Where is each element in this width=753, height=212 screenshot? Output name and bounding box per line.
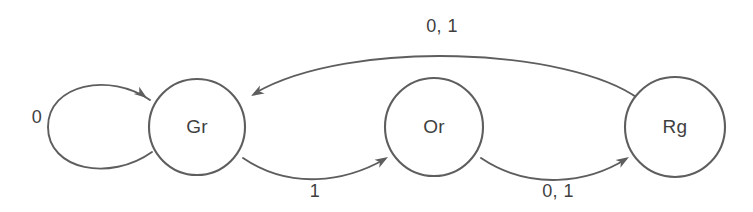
transition-path-or-to-rg [481, 158, 626, 180]
transition-label-rg-to-gr: 0, 1 [426, 16, 458, 36]
transition-gr-to-or[interactable] [243, 153, 390, 179]
arrowhead-gr-self [134, 87, 150, 102]
arrowhead-gr-to-or [374, 153, 390, 168]
state-label-rg: Rg [663, 116, 688, 137]
transition-path-gr-to-or [243, 158, 385, 179]
transition-label-gr-to-or: 1 [310, 181, 320, 201]
transition-label-gr-self: 0 [32, 107, 42, 127]
state-node-gr[interactable]: Gr [149, 79, 245, 175]
arrowhead-rg-to-gr [249, 86, 265, 100]
transition-label-or-to-rg: 0, 1 [542, 181, 574, 201]
transition-gr-self[interactable] [48, 85, 152, 169]
state-diagram-canvas: GrOrRg 010, 10, 1 [0, 0, 753, 212]
transition-or-to-rg[interactable] [481, 153, 631, 180]
state-diagram: GrOrRg 010, 10, 1 [0, 0, 753, 212]
state-label-gr: Gr [186, 116, 208, 137]
state-label-or: Or [423, 116, 445, 137]
state-node-or[interactable]: Or [385, 78, 483, 176]
states-layer: GrOrRg [149, 77, 725, 177]
transition-path-gr-self [48, 85, 152, 169]
transitions-layer [48, 56, 639, 180]
arrowhead-or-to-rg [616, 153, 632, 168]
transition-labels-layer: 010, 10, 1 [32, 16, 574, 201]
state-node-rg[interactable]: Rg [625, 77, 725, 177]
